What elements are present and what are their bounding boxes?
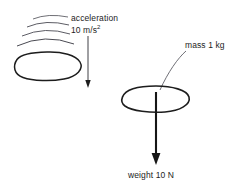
acceleration-label: acceleration (71, 13, 118, 23)
motion-arc-1 (33, 15, 68, 19)
acceleration-value-number: 10 m/s (71, 25, 97, 35)
motion-arc-4 (17, 39, 74, 46)
acceleration-arrow-head (85, 80, 90, 88)
mass-label: mass 1 kg (185, 40, 225, 50)
motion-arcs-group (17, 15, 74, 46)
motion-arc-3 (22, 30, 70, 36)
weight-label: weight 10 N (128, 170, 174, 180)
diagram-canvas (0, 0, 231, 195)
acceleration-value-label: 10 m/s2 (71, 25, 101, 35)
weight-arrow (152, 92, 161, 165)
accelerating-blob (15, 52, 82, 81)
acceleration-arrow (85, 36, 90, 88)
physics-diagram: acceleration 10 m/s2 mass 1 kg weight 10… (0, 0, 231, 195)
motion-arc-2 (27, 22, 69, 27)
mass-leader-line (160, 51, 186, 90)
acceleration-value-exponent: 2 (97, 24, 100, 30)
weight-arrow-head (152, 153, 161, 165)
